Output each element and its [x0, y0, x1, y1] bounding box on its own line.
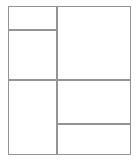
bottom-right-cell[interactable] [57, 124, 131, 155]
top-left-cell[interactable] [8, 6, 57, 30]
bottom-left-cell[interactable] [8, 80, 57, 155]
mid-left-cell[interactable] [8, 30, 57, 80]
top-right-cell[interactable] [57, 6, 131, 80]
wireframe-canvas [0, 0, 139, 160]
mid-right-cell[interactable] [57, 80, 131, 124]
